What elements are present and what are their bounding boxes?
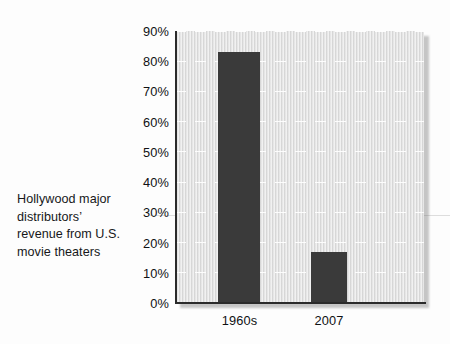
x-axis-line bbox=[175, 302, 426, 304]
y-axis-tick-label: 30% bbox=[123, 205, 169, 220]
y-axis-tick-label: 0% bbox=[123, 296, 169, 311]
y-axis-tick-label: 20% bbox=[123, 235, 169, 250]
plot-area bbox=[175, 31, 424, 303]
y-axis-tick-label: 60% bbox=[123, 114, 169, 129]
gridline bbox=[175, 182, 424, 183]
plot-wrapper bbox=[175, 31, 424, 303]
bar-1960s bbox=[218, 52, 260, 303]
x-axis-labels: 1960s2007 bbox=[175, 313, 424, 333]
gridline bbox=[175, 61, 424, 62]
y-axis-labels: 0%10%20%30%40%50%60%70%80%90% bbox=[119, 31, 169, 303]
y-axis-tick-label: 80% bbox=[123, 54, 169, 69]
gridline bbox=[175, 121, 424, 122]
y-axis-tick-label: 50% bbox=[123, 144, 169, 159]
x-axis-tick-label: 2007 bbox=[315, 313, 344, 328]
chart-page: Hollywood major distributors’ revenue fr… bbox=[0, 0, 450, 344]
gridline bbox=[175, 91, 424, 92]
y-axis-tick-label: 90% bbox=[123, 24, 169, 39]
x-axis-tick-label: 1960s bbox=[222, 313, 257, 328]
gridline bbox=[175, 272, 424, 273]
y-axis-tick-label: 10% bbox=[123, 265, 169, 280]
gridline bbox=[175, 31, 424, 32]
y-axis-tick-label: 70% bbox=[123, 84, 169, 99]
y-axis-tick-label: 40% bbox=[123, 175, 169, 190]
y-axis-line bbox=[175, 31, 177, 304]
gridline bbox=[175, 212, 424, 213]
gridline bbox=[175, 151, 424, 152]
bar-2007 bbox=[311, 252, 347, 303]
gridline bbox=[175, 242, 424, 243]
paper-texture bbox=[175, 31, 424, 303]
